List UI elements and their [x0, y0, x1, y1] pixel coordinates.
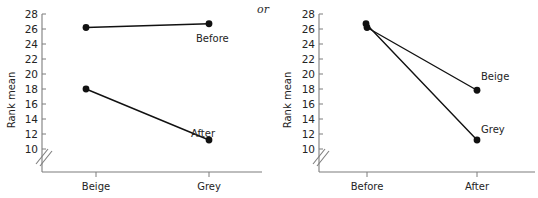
y-tick-label: 16	[302, 98, 316, 110]
x-axis-ticks-left	[96, 172, 209, 177]
y-tick-label: 20	[25, 68, 38, 80]
y-tick-label: 14	[302, 113, 316, 125]
x-axis-ticks-right	[367, 172, 477, 177]
y-tick-label: 12	[302, 128, 315, 140]
y-axis-ticks-right	[319, 14, 323, 149]
y-axis-title-right: Rank mean	[282, 72, 293, 129]
y-axis-break-icon-right	[313, 149, 329, 166]
series-label-beige-right: Beige	[481, 71, 509, 82]
series-before-left	[83, 20, 213, 31]
figure-two-panel-interaction-plot: Rank mean 28 26 24 22 20 18 16 14 12 10	[0, 0, 538, 198]
y-tick-label: 14	[25, 113, 39, 125]
panel-conjunction-label: or	[257, 3, 269, 16]
series-label-grey-right: Grey	[481, 124, 505, 135]
x-tick-label: Before	[351, 181, 384, 192]
data-point	[206, 20, 213, 27]
chart-panel-right: Rank mean 28 26 24 22 20 18 16 14 12 10	[269, 0, 538, 198]
x-tick-label: Grey	[197, 181, 221, 192]
y-tick-label: 26	[25, 23, 39, 35]
series-label-after-left: After	[191, 128, 216, 139]
chart-svg-right: Rank mean 28 26 24 22 20 18 16 14 12 10	[269, 0, 538, 198]
series-label-before-left: Before	[196, 33, 229, 44]
data-point	[83, 24, 90, 31]
y-axis-title-left: Rank mean	[6, 72, 17, 129]
y-tick-label: 12	[25, 128, 38, 140]
y-tick-label: 22	[302, 53, 315, 65]
data-point	[474, 87, 481, 94]
y-tick-label: 10	[302, 143, 315, 155]
y-tick-label: 18	[25, 83, 38, 95]
data-point	[83, 86, 90, 93]
data-point	[363, 20, 370, 27]
data-point	[474, 137, 481, 144]
y-tick-label: 26	[302, 23, 316, 35]
y-axis-ticks-left	[42, 14, 46, 149]
x-tick-label: After	[465, 181, 490, 192]
y-tick-label: 28	[25, 8, 38, 20]
x-tick-label: Beige	[82, 181, 110, 192]
y-tick-label: 22	[25, 53, 38, 65]
y-tick-label: 28	[302, 8, 315, 20]
y-tick-label: 10	[25, 143, 38, 155]
y-axis-break-icon-left	[36, 149, 52, 166]
y-tick-label: 18	[302, 83, 315, 95]
y-tick-label: 24	[302, 38, 316, 50]
chart-svg-left: Rank mean 28 26 24 22 20 18 16 14 12 10	[0, 0, 269, 198]
y-tick-label: 16	[25, 98, 39, 110]
y-tick-label: 24	[25, 38, 39, 50]
y-tick-label: 20	[302, 68, 315, 80]
chart-panel-left: Rank mean 28 26 24 22 20 18 16 14 12 10	[0, 0, 269, 198]
